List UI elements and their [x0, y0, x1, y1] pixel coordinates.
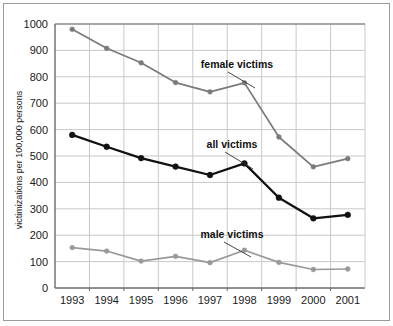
- x-tick-label: 1997: [198, 294, 222, 306]
- y-tick-label: 900: [30, 44, 48, 56]
- series-data-point: [276, 195, 282, 201]
- x-axis-tick-labels: 199319941995199619971998199920002001: [60, 294, 360, 306]
- y-tick-label: 400: [30, 176, 48, 188]
- y-axis-tick-labels: 01002003004005006007008009001000: [24, 18, 48, 294]
- y-axis-title: victimizations per 100,000 persons: [14, 90, 24, 229]
- series-annotations: female victimsall victimsmale victims: [200, 58, 273, 257]
- series-data-point: [173, 80, 178, 85]
- series-data-point: [276, 135, 281, 140]
- chart-figure: 01002003004005006007008009001000 1993199…: [0, 0, 393, 326]
- line-chart: 01002003004005006007008009001000 1993199…: [0, 0, 393, 326]
- x-tick-label: 1993: [60, 294, 84, 306]
- series-line: [72, 248, 348, 270]
- y-tick-label: 100: [30, 256, 48, 268]
- x-tick-label: 2001: [336, 294, 360, 306]
- x-tick-label: 1994: [94, 294, 118, 306]
- series-annotation-label: female victims: [201, 58, 274, 70]
- series-annotation-label: male victims: [200, 228, 263, 240]
- series-data-point: [138, 155, 144, 161]
- y-tick-label: 500: [30, 150, 48, 162]
- series-annotation-label: all victims: [207, 138, 258, 150]
- series-data-point: [104, 249, 109, 254]
- y-tick-label: 200: [30, 229, 48, 241]
- x-tick-label: 1998: [232, 294, 256, 306]
- y-tick-label: 300: [30, 203, 48, 215]
- series-data-point: [70, 27, 75, 32]
- series-data-point: [207, 172, 213, 178]
- series-data-point: [311, 164, 316, 169]
- series-data-point: [310, 215, 316, 221]
- series-data-point: [173, 164, 179, 170]
- x-tick-label: 1996: [163, 294, 187, 306]
- x-tick-label: 1995: [129, 294, 153, 306]
- series-data-point: [345, 267, 350, 272]
- series-data-point: [311, 267, 316, 272]
- y-tick-label: 1000: [24, 18, 48, 30]
- y-tick-label: 600: [30, 124, 48, 136]
- series-data-point: [208, 89, 213, 94]
- annotation-leader-line: [225, 152, 253, 169]
- series-data-point: [276, 260, 281, 265]
- series-data-point: [104, 46, 109, 51]
- series-data-point: [139, 60, 144, 65]
- series-data-point: [139, 259, 144, 264]
- y-tick-label: 700: [30, 97, 48, 109]
- series-data-point: [345, 212, 351, 218]
- series-data-point: [208, 260, 213, 265]
- y-tick-label: 800: [30, 71, 48, 83]
- series-data-point: [345, 156, 350, 161]
- series-data-point: [69, 132, 75, 138]
- series-data-point: [70, 245, 75, 250]
- y-tick-label: 0: [42, 282, 48, 294]
- series-data-point: [104, 144, 110, 150]
- series-data-point: [173, 254, 178, 259]
- x-tick-label: 1999: [267, 294, 291, 306]
- x-tick-label: 2000: [301, 294, 325, 306]
